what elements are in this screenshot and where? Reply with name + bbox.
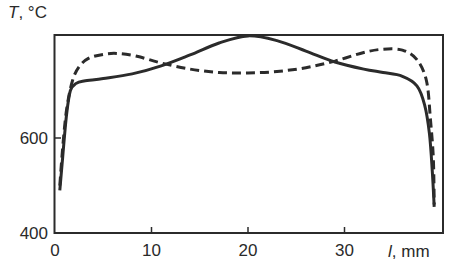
chart: 0102030 400600 T, °C l, mm	[0, 0, 461, 269]
x-tick-label: 0	[50, 241, 59, 260]
plot-series	[60, 36, 434, 207]
x-tick-label: 10	[142, 241, 161, 260]
x-axis-title: l, mm	[388, 242, 430, 261]
series-line-solid	[60, 36, 434, 207]
plot-frame	[55, 35, 444, 233]
x-tick-label: 30	[335, 241, 354, 260]
x-axis-ticks: 0102030	[50, 227, 354, 260]
x-axis-unit: , mm	[392, 242, 430, 261]
y-axis-unit: , °C	[18, 3, 47, 22]
y-tick-label: 600	[20, 129, 48, 148]
x-tick-label: 20	[239, 241, 258, 260]
y-tick-label: 400	[20, 224, 48, 243]
y-axis-title: T, °C	[8, 3, 47, 22]
